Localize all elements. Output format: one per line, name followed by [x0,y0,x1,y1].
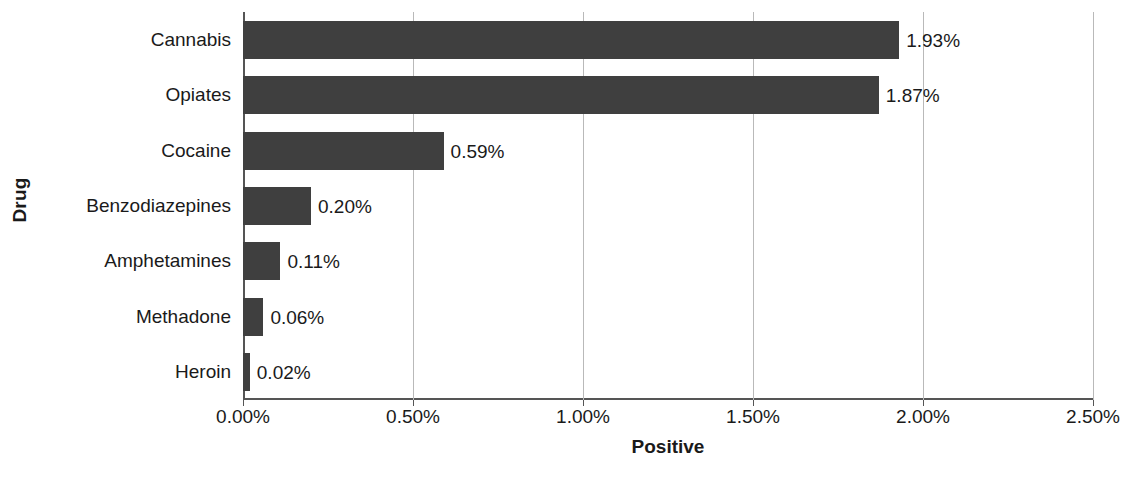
gridline [753,12,754,400]
y-tick-label: Amphetamines [44,234,237,289]
x-tick-label: 1.50% [726,406,780,428]
x-axis-title: Positive [243,436,1093,458]
x-tick-label: 1.00% [556,406,610,428]
bar-value-label: 0.11% [287,252,339,271]
x-tick-label: 0.50% [386,406,440,428]
gridline [583,12,584,400]
gridline [413,12,414,400]
y-tick-label: Cocaine [44,123,237,178]
y-tick-label: Heroin [44,345,237,400]
bar-value-label: 0.59% [451,142,505,161]
bar-value-label: 1.87% [886,86,940,105]
bar [243,242,280,280]
x-axis-line [243,398,1093,400]
bar [243,76,879,114]
chart-canvas: Drug CannabisOpiatesCocaineBenzodiazepin… [0,0,1145,480]
x-tick-label: 0.00% [216,406,270,428]
x-tick-labels: 0.00%0.50%1.00%1.50%2.00%2.50% [243,406,1093,432]
bar-value-label: 0.06% [270,308,324,327]
y-axis-title: Drug [0,0,40,400]
plot-area: 1.93%1.87%0.59%0.20%0.11%0.06%0.02% [243,12,1093,400]
y-tick-label: Benzodiazepines [44,178,237,233]
x-tick-label: 2.00% [896,406,950,428]
bar [243,21,899,59]
bar [243,298,263,336]
bar [243,353,250,391]
x-tick-label: 2.50% [1066,406,1120,428]
y-tick-label: Methadone [44,289,237,344]
y-tick-label: Opiates [44,67,237,122]
y-axis-title-text: Drug [9,177,31,222]
bar-value-label: 0.02% [257,363,311,382]
bar-value-label: 1.93% [906,31,960,50]
y-tick-label: Cannabis [44,12,237,67]
x-axis-title-text: Positive [632,436,705,457]
gridline [923,12,924,400]
bar [243,187,311,225]
y-tick-labels: CannabisOpiatesCocaineBenzodiazepinesAmp… [44,12,237,400]
bar-value-label: 0.20% [318,197,372,216]
gridline [1093,12,1094,400]
bar [243,132,444,170]
